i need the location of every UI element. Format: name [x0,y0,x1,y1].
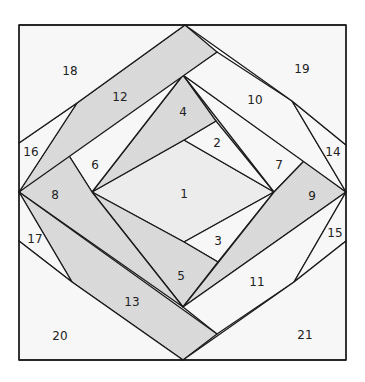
paper-piecing-diagram: 123456789101112131415161718192021 [0,0,365,382]
piece-label-9: 9 [308,189,316,203]
piece-label-15: 15 [327,226,342,240]
piece-label-12: 12 [112,90,127,104]
piece-label-17: 17 [27,232,42,246]
piece-label-3: 3 [214,234,222,248]
piece-label-5: 5 [177,269,185,283]
piece-label-20: 20 [52,329,67,343]
piece-label-6: 6 [91,158,99,172]
piece-label-13: 13 [124,295,139,309]
piece-label-11: 11 [249,275,264,289]
piece-label-2: 2 [213,136,221,150]
piece-label-7: 7 [275,158,283,172]
piece-label-10: 10 [247,93,262,107]
piece-label-4: 4 [179,105,187,119]
piece-label-14: 14 [325,145,340,159]
piece-label-8: 8 [51,188,59,202]
piece-label-19: 19 [294,62,309,76]
piece-label-16: 16 [23,145,38,159]
piece-label-21: 21 [297,328,312,342]
piece-label-18: 18 [62,64,77,78]
piece-label-1: 1 [180,187,188,201]
